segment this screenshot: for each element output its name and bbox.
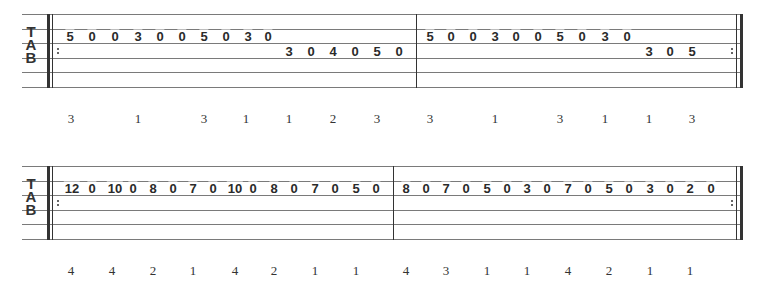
fret-number: 5: [604, 182, 613, 195]
fret-number: 0: [706, 182, 715, 195]
fingering-number: 1: [243, 111, 250, 127]
fret-number: 12: [64, 182, 80, 195]
fret-number: 7: [310, 182, 319, 195]
fret-number: 0: [87, 30, 96, 43]
fingering-number: 1: [312, 263, 319, 279]
fret-number: 0: [177, 30, 186, 43]
staff-line: [22, 43, 742, 44]
start-repeat-dot: [57, 204, 59, 206]
fret-number: 0: [208, 182, 217, 195]
fret-number: 0: [502, 182, 511, 195]
fingering-number: 1: [353, 263, 360, 279]
fingering-number: 4: [68, 263, 75, 279]
staff-line: [22, 87, 742, 88]
fingering-number: 4: [403, 263, 410, 279]
fret-number: 0: [330, 182, 339, 195]
fret-number: 0: [624, 182, 633, 195]
fret-number: 3: [645, 182, 654, 195]
fret-number: 3: [490, 30, 499, 43]
fingering-number: 1: [524, 263, 531, 279]
fret-number: 8: [401, 182, 410, 195]
fret-number: 3: [644, 45, 653, 58]
fingering-number: 1: [647, 263, 654, 279]
fret-number: 0: [542, 182, 551, 195]
fingering-number: 3: [201, 111, 208, 127]
fingering-number: 1: [492, 111, 499, 127]
fret-number: 10: [227, 182, 243, 195]
end-repeat-dot: [731, 200, 733, 202]
fret-number: 7: [441, 182, 450, 195]
fret-number: 0: [306, 45, 315, 58]
fret-number: 5: [65, 30, 74, 43]
fingering-number: 3: [443, 263, 450, 279]
staff-line: [22, 166, 742, 167]
fret-number: 0: [461, 182, 470, 195]
fret-number: 8: [269, 182, 278, 195]
fret-number: 0: [263, 30, 272, 43]
fingering-number: 1: [602, 111, 609, 127]
staff-line: [22, 210, 742, 211]
staff-line: [22, 14, 742, 15]
fret-number: 0: [665, 45, 674, 58]
fingering-number: 4: [109, 263, 116, 279]
fingering-number: 3: [68, 111, 75, 127]
fret-number: 5: [425, 30, 434, 43]
fret-number: 7: [188, 182, 197, 195]
end-repeat-dot: [731, 204, 733, 206]
staff-line: [22, 58, 742, 59]
fingering-number: 1: [646, 111, 653, 127]
fingering-number: 2: [606, 263, 613, 279]
fret-number: 0: [221, 30, 230, 43]
fingering-number: 1: [135, 111, 142, 127]
start-repeat-barline-thin: [52, 166, 53, 240]
end-repeat-dot: [731, 48, 733, 50]
fret-number: 0: [289, 182, 298, 195]
fret-number: 0: [110, 30, 119, 43]
fret-number: 0: [446, 30, 455, 43]
fret-number: 3: [600, 30, 609, 43]
staff-line: [22, 239, 742, 240]
fret-number: 5: [687, 45, 696, 58]
staff-line: [22, 224, 742, 225]
fret-number: 2: [685, 182, 694, 195]
fingering-number: 2: [150, 263, 157, 279]
fret-number: 0: [168, 182, 177, 195]
start-repeat-barline-thick: [47, 14, 50, 88]
fret-number: 7: [563, 182, 572, 195]
tab-clef-letter: B: [24, 51, 38, 65]
start-repeat-dot: [57, 48, 59, 50]
fret-number: 10: [107, 182, 123, 195]
fret-number: 0: [622, 30, 631, 43]
fret-number: 5: [372, 45, 381, 58]
fret-number: 0: [421, 182, 430, 195]
end-repeat-dot: [731, 52, 733, 54]
start-repeat-barline-thin: [52, 14, 53, 88]
fingering-number: 3: [427, 111, 434, 127]
fret-number: 0: [155, 30, 164, 43]
start-repeat-dot: [57, 52, 59, 54]
fret-number: 5: [555, 30, 564, 43]
fingering-number: 1: [190, 263, 197, 279]
fret-number: 0: [248, 182, 257, 195]
fingering-number: 3: [557, 111, 564, 127]
fret-number: 0: [394, 45, 403, 58]
fret-number: 0: [87, 182, 96, 195]
fingering-number: 4: [565, 263, 572, 279]
end-repeat-barline-thin: [736, 14, 737, 88]
fret-number: 0: [665, 182, 674, 195]
fret-number: 3: [133, 30, 142, 43]
measure-barline: [393, 166, 394, 240]
start-repeat-barline-thick: [47, 166, 50, 240]
fret-number: 0: [577, 30, 586, 43]
fret-number: 5: [482, 182, 491, 195]
fret-number: 4: [328, 45, 337, 58]
tab-clef-letter: B: [24, 203, 38, 217]
fret-number: 0: [533, 30, 542, 43]
fret-number: 5: [199, 30, 208, 43]
fret-number: 0: [583, 182, 592, 195]
fret-number: 0: [371, 182, 380, 195]
fingering-number: 4: [232, 263, 239, 279]
fret-number: 3: [243, 30, 252, 43]
measure-barline: [416, 14, 417, 88]
fret-number: 0: [511, 30, 520, 43]
